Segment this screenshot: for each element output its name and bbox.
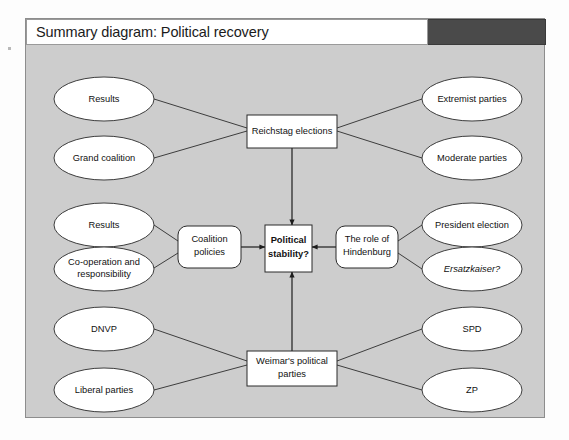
node-cooperation-responsibility-label-2: responsibility (77, 269, 131, 279)
link-reichstag-to-extremist (337, 99, 422, 128)
diagram-title-bar: Summary diagram: Political recovery (26, 19, 546, 45)
link-weimar-to-zp (337, 365, 422, 390)
node-cooperation-responsibility[interactable]: Co-operation and responsibility (54, 247, 154, 291)
node-ersatzkaiser[interactable]: Ersatzkaiser? (422, 247, 522, 291)
node-spd-label: SPD (462, 324, 481, 334)
node-grand-coalition[interactable]: Grand coalition (54, 136, 154, 180)
node-dnvp[interactable]: DNVP (54, 307, 154, 351)
node-dnvp-label: DNVP (91, 324, 117, 334)
link-hindenburg-to-ersatzkaiser (398, 253, 422, 269)
title-bar-dark-block (428, 19, 546, 45)
node-role-of-hindenburg-label-1: The role of (345, 234, 390, 244)
node-president-election[interactable]: President election (422, 203, 522, 247)
node-weimar-political-parties[interactable]: Weimar's political parties (247, 351, 337, 386)
link-results-mid-to-coalition (154, 225, 178, 241)
node-ersatzkaiser-label: Ersatzkaiser? (444, 264, 501, 274)
node-reichstag-elections[interactable]: Reichstag elections (247, 115, 337, 148)
reichstag-rest-part: elections (293, 126, 333, 136)
link-cooperation-to-coalition (154, 253, 178, 268)
diagram-canvas: Results Grand coalition Reichstag electi… (26, 45, 544, 417)
node-results-mid[interactable]: Results (54, 203, 154, 247)
node-coalition-policies[interactable]: Coalition policies (178, 226, 241, 268)
link-dnvp-to-weimar (154, 329, 247, 361)
node-zp-label: ZP (466, 385, 478, 395)
reichstag-italic-part: Reichstag (252, 126, 293, 136)
node-results-top[interactable]: Results (54, 77, 154, 121)
node-weimar-political-parties-label-1: Weimar's political (256, 356, 328, 366)
node-extremist-parties[interactable]: Extremist parties (422, 77, 522, 121)
title-label-container: Summary diagram: Political recovery (26, 19, 428, 45)
node-moderate-parties-label: Moderate parties (437, 153, 507, 163)
link-weimar-to-spd (337, 329, 422, 361)
node-results-mid-label: Results (88, 220, 119, 230)
page-root: Summary diagram: Political recovery (0, 0, 569, 440)
scan-artifact-dot (8, 47, 11, 50)
node-grand-coalition-label: Grand coalition (73, 153, 136, 163)
link-liberal-to-weimar (154, 365, 247, 390)
node-liberal-parties[interactable]: Liberal parties (54, 368, 154, 412)
node-reichstag-elections-label: Reichstag elections (252, 126, 333, 136)
node-cooperation-responsibility-label-1: Co-operation and (68, 257, 140, 267)
link-grand-coalition-to-reichstag (154, 131, 247, 158)
page-title: Summary diagram: Political recovery (36, 24, 269, 40)
node-results-top-label: Results (88, 94, 119, 104)
node-spd[interactable]: SPD (422, 307, 522, 351)
link-hindenburg-to-president (398, 225, 422, 241)
diagram-panel: Summary diagram: Political recovery (25, 18, 545, 418)
node-political-stability-label-1: Political (271, 235, 307, 245)
link-reichstag-to-moderate (337, 131, 422, 158)
node-role-of-hindenburg[interactable]: The role of Hindenburg (336, 226, 398, 268)
node-liberal-parties-label: Liberal parties (75, 385, 134, 395)
node-weimar-political-parties-label-2: parties (278, 369, 306, 379)
link-results-top-to-reichstag (154, 99, 247, 128)
node-coalition-policies-label-2: policies (194, 247, 225, 257)
node-zp[interactable]: ZP (422, 368, 522, 412)
node-political-stability-label-2: stability? (268, 249, 309, 259)
node-role-of-hindenburg-label-2: Hindenburg (343, 247, 391, 257)
node-moderate-parties[interactable]: Moderate parties (422, 136, 522, 180)
node-president-election-label: President election (435, 220, 509, 230)
node-political-stability[interactable]: Political stability? (265, 225, 312, 272)
node-coalition-policies-label-1: Coalition (191, 234, 227, 244)
node-extremist-parties-label: Extremist parties (437, 94, 507, 104)
